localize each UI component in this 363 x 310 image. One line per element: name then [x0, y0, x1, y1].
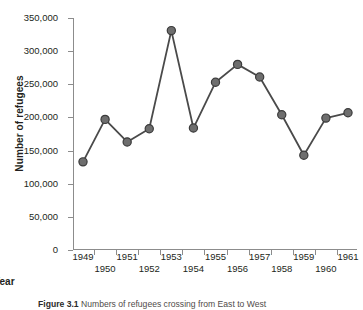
x-axis-tick-label: 1953 — [154, 252, 188, 262]
x-axis-tick-label: 1955 — [199, 252, 233, 262]
x-axis-title-text: Year — [0, 276, 15, 287]
data-point-marker: 1958: 204,000 — [278, 111, 286, 119]
y-axis-tick-label: 200,000 — [10, 112, 58, 122]
chart-plot-area: Number of refugees 050,000100,000150,000… — [0, 0, 358, 288]
data-point-marker: 1950: 197,000 — [101, 115, 109, 123]
data-point-marker: 1956: 280,000 — [233, 60, 241, 68]
x-axis-tick-label: 1956 — [221, 264, 255, 274]
data-series-line: 1949: 133,0001950: 197,0001951: 163,0001… — [73, 18, 356, 250]
figure-caption: Figure 3.1 Numbers of refugees crossing … — [38, 299, 350, 310]
data-point-marker: 1961: 207,000 — [344, 109, 352, 117]
data-point-marker: 1959: 143,000 — [300, 151, 308, 159]
y-axis-tick-label: 100,000 — [10, 179, 58, 189]
x-axis-tick-label: 1958 — [265, 264, 299, 274]
y-axis-tick-label: 250,000 — [10, 79, 58, 89]
figure-number: Figure 3.1 — [38, 299, 79, 309]
figure-caption-text: Numbers of refugees crossing from East t… — [81, 299, 266, 309]
data-point-marker: 1954: 184,000 — [189, 124, 197, 132]
x-axis-tick-label: 1959 — [287, 252, 321, 262]
y-axis-tick-label: 150,000 — [10, 146, 58, 156]
data-point-marker: 1951: 163,000 — [123, 138, 131, 146]
x-axis-tick-label: 1960 — [309, 264, 343, 274]
data-point-marker: 1960: 199,000 — [322, 114, 330, 122]
x-axis-tick-label: 1952 — [132, 264, 166, 274]
x-axis-title: Year — [0, 276, 358, 287]
x-axis-tick-label: 1954 — [176, 264, 210, 274]
x-axis-tick-label: 1957 — [243, 252, 277, 262]
data-point-marker: 1953: 331,000 — [167, 26, 175, 34]
x-axis-tick-label: 1951 — [110, 252, 144, 262]
y-axis-tick-label: 50,000 — [10, 212, 58, 222]
y-axis-tick-label: 350,000 — [10, 13, 58, 23]
x-axis-tick-label: 1949 — [66, 252, 100, 262]
data-point-marker: 1952: 183,000 — [145, 125, 153, 133]
x-axis-tick-label: 1950 — [88, 264, 122, 274]
x-axis-tick-label: 1961 — [331, 252, 363, 262]
data-point-marker: 1955: 253,000 — [211, 78, 219, 86]
data-point-marker: 1949: 133,000 — [79, 158, 87, 166]
data-point-marker: 1957: 261,000 — [256, 73, 264, 81]
y-axis-tick-label: 300,000 — [10, 46, 58, 56]
y-axis-tick-labels: 050,000100,000150,000200,000250,000300,0… — [8, 0, 58, 288]
